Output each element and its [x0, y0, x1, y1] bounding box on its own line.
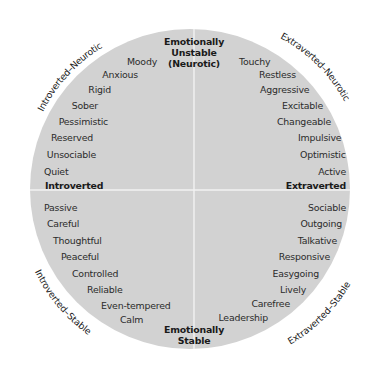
- trait-excitable: Excitable: [282, 100, 323, 111]
- axis-label-top: Emotionally Unstable (Neurotic): [164, 36, 224, 69]
- axis-bottom-line-1: Emotionally: [164, 324, 224, 335]
- trait-aggressive: Aggressive: [260, 84, 310, 95]
- trait-careful: Careful: [47, 218, 79, 229]
- trait-sober: Sober: [72, 100, 99, 111]
- trait-unsociable: Unsociable: [47, 149, 97, 160]
- trait-easygoing: Easygoing: [273, 268, 320, 279]
- trait-anxious: Anxious: [102, 69, 138, 80]
- trait-even-tempered: Even-tempered: [101, 300, 171, 311]
- trait-lively: Lively: [280, 284, 307, 295]
- trait-touchy: Touchy: [238, 56, 271, 67]
- trait-restless: Restless: [259, 69, 296, 80]
- trait-passive: Passive: [44, 202, 78, 213]
- trait-impulsive: Impulsive: [298, 132, 342, 143]
- trait-active: Active: [318, 166, 346, 177]
- trait-outgoing: Outgoing: [300, 218, 342, 229]
- trait-talkative: Talkative: [297, 235, 338, 246]
- trait-moody: Moody: [127, 56, 158, 67]
- trait-pessimistic: Pessimistic: [59, 116, 108, 127]
- trait-thoughtful: Thoughtful: [52, 235, 102, 246]
- trait-carefree: Carefree: [251, 298, 290, 309]
- axis-top-line-1: Emotionally: [164, 36, 224, 47]
- trait-changeable: Changeable: [277, 116, 331, 127]
- personality-circle-diagram: Emotionally Unstable (Neurotic) Emotiona…: [0, 0, 378, 370]
- trait-responsive: Responsive: [279, 251, 331, 262]
- axis-label-right: Extraverted: [286, 180, 346, 191]
- trait-sociable: Sociable: [308, 202, 346, 213]
- axis-bottom-line-2: Stable: [178, 335, 211, 346]
- trait-reliable: Reliable: [87, 284, 123, 295]
- axis-top-line-2: Unstable: [171, 47, 216, 58]
- trait-quiet: Quiet: [44, 166, 69, 177]
- axis-top-line-3: (Neurotic): [168, 58, 220, 69]
- trait-reserved: Reserved: [51, 132, 93, 143]
- trait-optimistic: Optimistic: [300, 149, 346, 160]
- trait-peaceful: Peaceful: [61, 251, 99, 262]
- axis-label-left: Introverted: [45, 180, 103, 191]
- diagram-svg: Emotionally Unstable (Neurotic) Emotiona…: [0, 0, 378, 370]
- trait-controlled: Controlled: [72, 268, 118, 279]
- trait-leadership: Leadership: [218, 312, 268, 323]
- trait-calm: Calm: [120, 314, 143, 325]
- trait-rigid: Rigid: [88, 84, 111, 95]
